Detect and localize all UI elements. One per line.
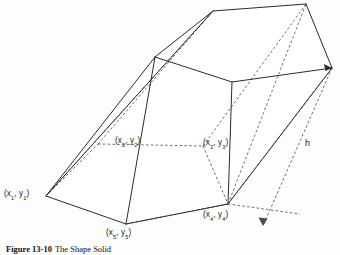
figure-container: (x1, y1) (x2, y2) (x3, y3) (x4, y4) (x5,… bbox=[0, 0, 340, 255]
vertex-label-5: (x5, y5) bbox=[106, 229, 131, 237]
vertex-label-4: (x4, y4) bbox=[203, 211, 228, 219]
figure-caption: Figure 13-10The Shape Solid bbox=[6, 245, 336, 254]
caption-body: The Shape Solid bbox=[52, 245, 111, 254]
prism-diagram bbox=[0, 0, 340, 255]
hidden-stub-v4-right bbox=[228, 204, 300, 214]
caption-number: Figure 13-10 bbox=[6, 245, 52, 254]
vertex-label-3: (x3, y3) bbox=[203, 139, 228, 147]
height-label: h bbox=[305, 139, 310, 148]
vertex-label-1: (x1, y1) bbox=[4, 190, 29, 198]
vertex-label-2: (x2, y2) bbox=[115, 137, 140, 145]
height-arrowhead bbox=[259, 218, 268, 227]
